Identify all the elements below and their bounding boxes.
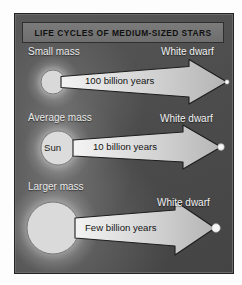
white-dwarf-dot-icon [218, 144, 225, 151]
star-disc-icon [27, 202, 79, 254]
white-dwarf-label: White dwarf [160, 113, 213, 124]
lifecycle-row-larger-mass: Larger mass White dwarf Few billion year… [15, 184, 233, 272]
title-band: LIFE CYCLES OF MEDIUM-SIZED STARS [22, 22, 224, 43]
duration-label: Few billion years [85, 222, 156, 233]
mass-label: Average mass [28, 112, 92, 123]
mass-label: Larger mass [28, 181, 84, 192]
figure-root: LIFE CYCLES OF MEDIUM-SIZED STARS [0, 0, 242, 285]
white-dwarf-dot-icon [225, 80, 229, 84]
white-dwarf-dot-icon [212, 224, 221, 233]
page-title: LIFE CYCLES OF MEDIUM-SIZED STARS [34, 28, 211, 38]
white-dwarf-label: White dwarf [161, 46, 214, 57]
diagram-panel: LIFE CYCLES OF MEDIUM-SIZED STARS [14, 13, 234, 274]
lifecycle-row-average-mass: Average mass White dwarf Sun 10 billion … [15, 116, 233, 182]
white-dwarf-label: White dwarf [157, 197, 210, 208]
lifecycle-row-small-mass: Small mass White dwarf 100 billion years [15, 52, 233, 114]
duration-label: 100 billion years [85, 75, 154, 86]
duration-label: 10 billion years [93, 141, 157, 152]
mass-label: Small mass [28, 46, 80, 57]
sun-label: Sun [44, 142, 61, 153]
